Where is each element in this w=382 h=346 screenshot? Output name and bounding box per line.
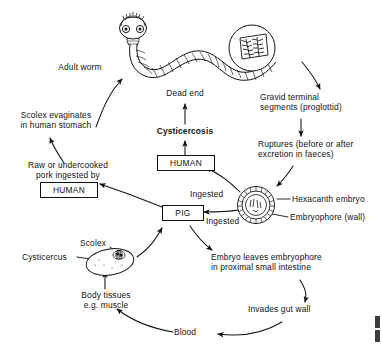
label-scolex-evaginates: Scolex evaginates in human stomach bbox=[2, 110, 110, 130]
label-embryo-leaves-embryophore: Embryo leaves embryophore in proximal sm… bbox=[211, 252, 381, 272]
box-human-upper: HUMAN bbox=[157, 155, 215, 171]
label-body-tissues: Body tissues e.g. muscle bbox=[62, 290, 150, 310]
page-edge-artifact bbox=[375, 316, 380, 342]
edge-egg-to-pig bbox=[204, 210, 239, 212]
edge-gutwall-to-blood bbox=[218, 322, 282, 335]
diagram-canvas: Adult worm Scolex evaginates in human st… bbox=[0, 0, 382, 346]
edge-worm-to-gravid bbox=[302, 62, 320, 89]
edge-pig-to-pork-human bbox=[100, 184, 162, 207]
cysticercus-illustration bbox=[84, 245, 135, 278]
box-pig: PIG bbox=[162, 205, 204, 221]
edge-cysticercus-to-pig bbox=[137, 228, 162, 257]
label-blood: Blood bbox=[163, 327, 207, 337]
label-embryophore-wall: Embryophore (wall) bbox=[290, 212, 382, 222]
edge-embryo-to-gutwall bbox=[300, 280, 306, 302]
label-dead-end: Dead end bbox=[153, 88, 217, 98]
label-ruptures: Ruptures (before or after excretion in f… bbox=[258, 139, 382, 159]
label-ingested-upper: Ingested bbox=[190, 189, 236, 199]
label-raw-undercooked-pork: Raw or undercooked pork ingested by bbox=[14, 160, 122, 180]
edge-pig-to-embryo-leaves bbox=[190, 226, 212, 250]
label-ingested-lower: Ingested bbox=[206, 216, 252, 226]
box-human-lower: HUMAN bbox=[40, 182, 98, 198]
label-cysticercus: Cysticercus bbox=[22, 252, 80, 262]
label-gravid-terminal-segments: Gravid terminal segments (proglottid) bbox=[260, 92, 378, 112]
adult-worm-illustration bbox=[120, 12, 277, 80]
label-invades-gut-wall: Invades gut wall bbox=[248, 304, 356, 314]
edge-ruptures-to-egg bbox=[277, 166, 293, 186]
label-scolex: Scolex bbox=[80, 238, 124, 248]
label-adult-worm: Adult worm bbox=[34, 62, 126, 72]
leader-embryophore bbox=[272, 214, 288, 217]
label-cysticercosis: Cysticercosis bbox=[145, 126, 225, 136]
proglottid-inset-illustration bbox=[229, 25, 275, 71]
label-hexacanth-embryo: Hexacanth embryo bbox=[292, 194, 382, 204]
